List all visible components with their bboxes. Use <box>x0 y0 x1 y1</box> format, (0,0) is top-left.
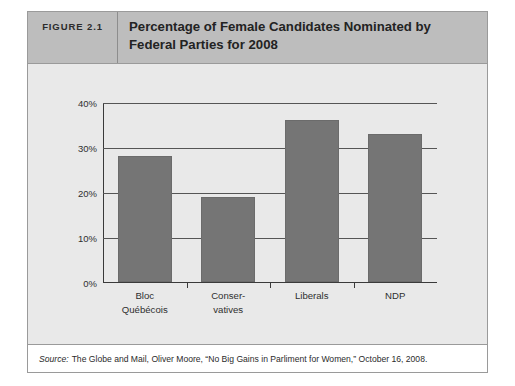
x-axis-label-line: Bloc <box>103 289 187 303</box>
chart-body: 0%10%20%30%40% BlocQuébécoisConser-vativ… <box>28 64 487 345</box>
figure-container: FIGURE 2.1 Percentage of Female Candidat… <box>27 11 488 373</box>
x-axis-label-conservatives: Conser-vatives <box>187 289 271 317</box>
figure-source: Source: The Globe and Mail, Oliver Moore… <box>28 344 487 372</box>
x-axis-tick <box>187 283 188 288</box>
figure-header: FIGURE 2.1 Percentage of Female Candidat… <box>28 12 487 64</box>
source-text: The Globe and Mail, Oliver Moore, “No Bi… <box>72 354 428 364</box>
y-axis-tick-label: 20% <box>78 188 97 199</box>
bar-conservatives <box>201 197 255 283</box>
x-axis-label-liberals: Liberals <box>270 289 354 303</box>
x-axis-label-ndp: NDP <box>354 289 438 303</box>
y-axis-tick-label: 0% <box>83 278 97 289</box>
x-axis-label-line: Liberals <box>270 289 354 303</box>
x-axis-label-bloc-qu-b-cois: BlocQuébécois <box>103 289 187 317</box>
y-axis-tick-label: 40% <box>78 98 97 109</box>
x-axis-label-line: Conser- <box>187 289 271 303</box>
bar-liberals <box>285 120 339 282</box>
bar-ndp <box>368 134 422 283</box>
gridline <box>103 103 437 104</box>
y-axis-tick-label: 30% <box>78 143 97 154</box>
bar-bloc-qu-b-cois <box>118 156 172 282</box>
x-axis-labels: BlocQuébécoisConser-vativesLiberalsNDP <box>103 289 437 335</box>
x-axis-tick <box>270 283 271 288</box>
chart-plot-wrapper: 0%10%20%30%40% BlocQuébécoisConser-vativ… <box>28 64 487 345</box>
x-axis-label-line: Québécois <box>103 303 187 317</box>
source-prefix: Source: <box>39 354 69 364</box>
x-axis-label-line: NDP <box>354 289 438 303</box>
y-axis-tick-label: 10% <box>78 233 97 244</box>
figure-number-label: FIGURE 2.1 <box>28 12 118 63</box>
x-axis-label-line: vatives <box>187 303 271 317</box>
figure-title: Percentage of Female Candidates Nominate… <box>118 12 487 63</box>
chart-plot-area: 0%10%20%30%40% <box>103 103 437 283</box>
x-axis-tick <box>354 283 355 288</box>
